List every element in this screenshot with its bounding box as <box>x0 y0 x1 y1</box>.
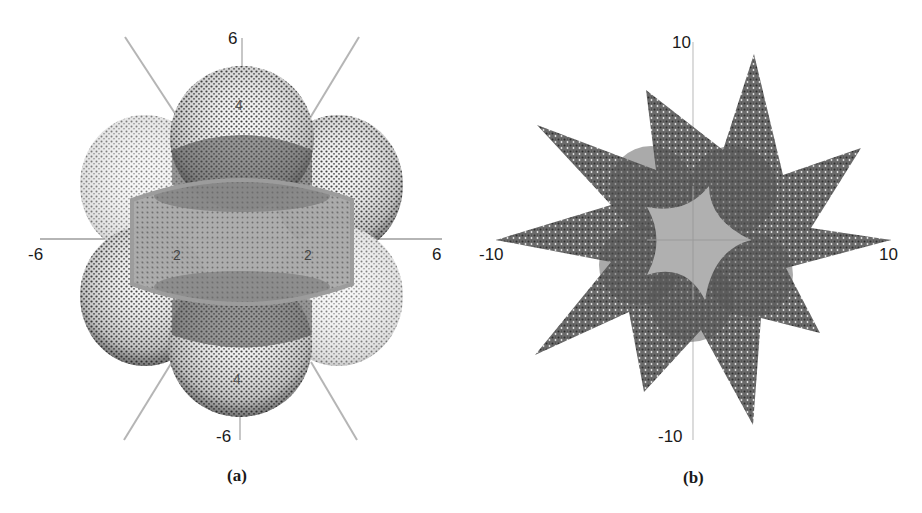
panel-b: -10 10 10 -10 (b) <box>461 0 922 513</box>
inner-tick-left-a: 2 <box>173 248 181 262</box>
caption-a: (a) <box>227 466 247 486</box>
diagonal-axis-lower-left <box>124 362 172 440</box>
diagonal-axis-lower-right <box>311 362 357 440</box>
plot-b-canvas <box>461 0 922 513</box>
tick-x-min-b: -10 <box>479 246 504 263</box>
diagonal-axis-upper-right <box>310 37 359 118</box>
tick-x-min-a: -6 <box>28 246 43 263</box>
tick-x-max-a: 6 <box>432 246 441 263</box>
tick-x-max-b: 10 <box>879 246 898 263</box>
tick-y-min-a: -6 <box>216 428 231 445</box>
tick-y-min-b: -10 <box>658 428 683 445</box>
inner-tick-right-a: 2 <box>304 248 312 262</box>
inner-tick-bottom-a: 4 <box>233 372 241 386</box>
caption-b: (b) <box>683 468 704 488</box>
panel-a: -6 6 6 -6 4 4 2 2 (a) <box>0 0 461 513</box>
diagonal-axis-upper-left <box>125 37 178 118</box>
tick-y-max-a: 6 <box>228 30 237 47</box>
central-band <box>132 180 352 304</box>
inner-tick-top-a: 4 <box>235 98 243 112</box>
tick-y-max-b: 10 <box>672 34 691 51</box>
